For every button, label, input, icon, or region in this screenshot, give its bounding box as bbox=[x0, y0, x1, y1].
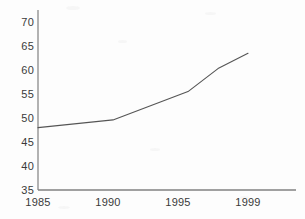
y-tick-label: 35 bbox=[10, 184, 34, 196]
x-tick-label: 1985 bbox=[18, 196, 58, 208]
data-series-line bbox=[38, 53, 248, 127]
x-tick-label: 1999 bbox=[228, 196, 268, 208]
y-tick-label: 65 bbox=[10, 40, 34, 52]
y-tick-label: 55 bbox=[10, 88, 34, 100]
y-tick-label: 45 bbox=[10, 136, 34, 148]
line-chart: 70 65 60 55 50 45 40 35 1985 1990 1995 1… bbox=[0, 0, 305, 219]
y-tick-label: 50 bbox=[10, 112, 34, 124]
plot-area bbox=[0, 0, 305, 219]
y-tick-label: 60 bbox=[10, 64, 34, 76]
y-tick-label: 40 bbox=[10, 160, 34, 172]
y-tick-label: 70 bbox=[10, 16, 34, 28]
x-tick-label: 1990 bbox=[88, 196, 128, 208]
x-tick-label: 1995 bbox=[158, 196, 198, 208]
